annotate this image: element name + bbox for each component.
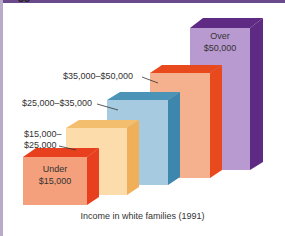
label-line: $15,000 (23, 175, 87, 187)
label-line: $25,000 (24, 140, 62, 151)
label-line: Over (190, 30, 250, 42)
label-over-50000: Over $50,000 (190, 30, 250, 54)
label-35000-50000: $35,000–$50,000 (63, 71, 133, 82)
label-line: $50,000 (190, 42, 250, 54)
chart-caption: Income in white families (1991) (0, 211, 285, 221)
label-15000-25000: $15,000– $25,000 (24, 129, 62, 151)
label-25000-35000: $25,000–$35,000 (22, 98, 92, 109)
label-under-15000: Under $15,000 (23, 163, 87, 187)
label-line: Under (23, 163, 87, 175)
label-line: $15,000– (24, 129, 62, 140)
